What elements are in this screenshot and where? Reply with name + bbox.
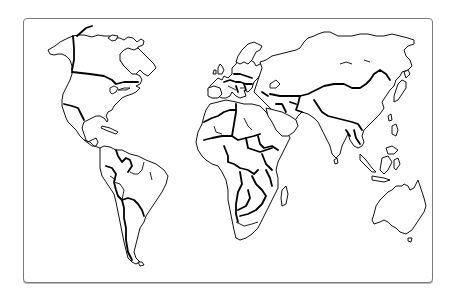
world-map bbox=[0, 0, 456, 296]
region-south-america bbox=[100, 146, 168, 266]
region-australia bbox=[372, 180, 426, 242]
region-north-america bbox=[48, 26, 144, 148]
